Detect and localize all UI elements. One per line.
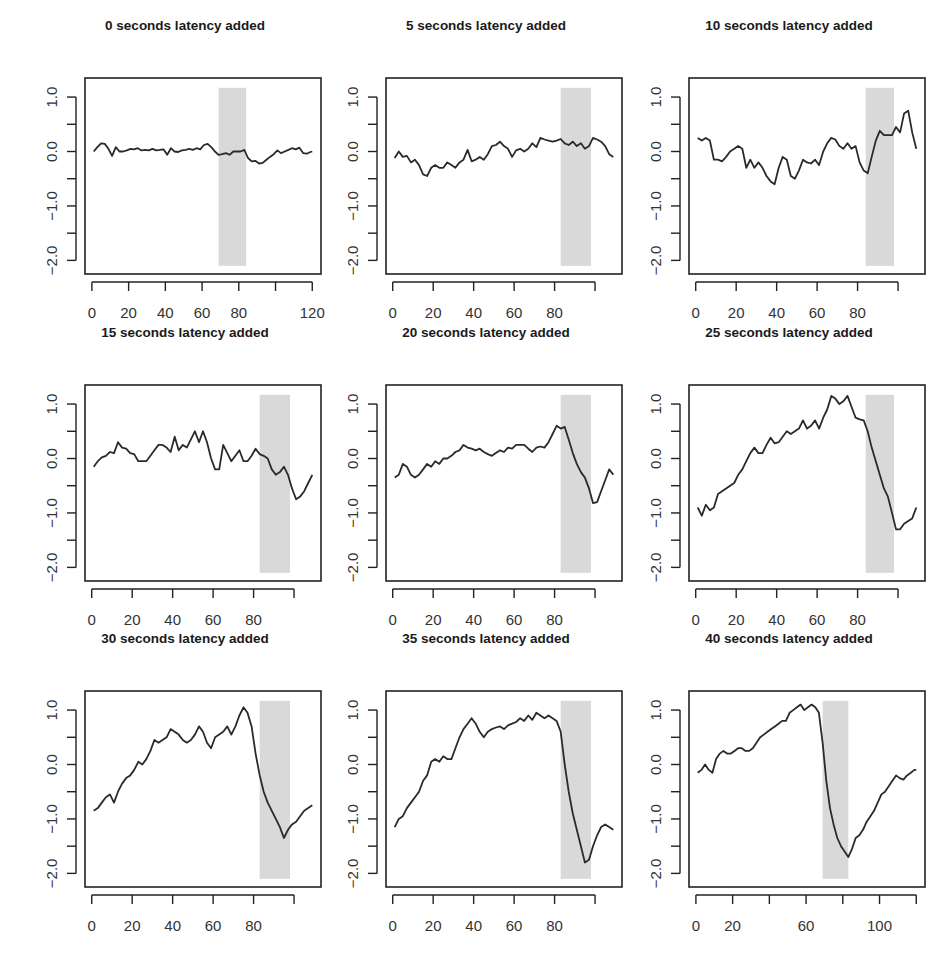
shaded-region bbox=[866, 395, 894, 573]
plot-area: 1.00.0−1.0−2.0020406080 bbox=[639, 307, 939, 617]
y-axis: 1.00.0−1.0−2.0 bbox=[344, 394, 377, 583]
svg-text:−2.0: −2.0 bbox=[43, 246, 60, 276]
svg-text:1.0: 1.0 bbox=[344, 394, 361, 415]
svg-text:0: 0 bbox=[389, 917, 397, 934]
y-axis: 1.00.0−1.0−2.0 bbox=[43, 394, 76, 583]
shaded-region bbox=[561, 701, 591, 879]
svg-text:1.0: 1.0 bbox=[647, 394, 664, 415]
shaded-region bbox=[260, 701, 290, 879]
plot-area: 1.00.0−1.0−2.0020406080 bbox=[336, 307, 636, 617]
y-axis: 1.00.0−1.0−2.0 bbox=[43, 87, 76, 276]
svg-text:80: 80 bbox=[245, 917, 262, 934]
data-line bbox=[698, 705, 917, 858]
svg-text:20: 20 bbox=[124, 917, 141, 934]
plot-area: 1.00.0−1.0−2.0020406080 bbox=[336, 0, 636, 310]
svg-text:−1.0: −1.0 bbox=[344, 804, 361, 834]
svg-text:100: 100 bbox=[867, 917, 892, 934]
svg-text:−1.0: −1.0 bbox=[43, 804, 60, 834]
panel: 25 seconds latency added 1.00.0−1.0−2.00… bbox=[639, 307, 939, 607]
svg-text:−2.0: −2.0 bbox=[43, 553, 60, 583]
panel: 20 seconds latency added 1.00.0−1.0−2.00… bbox=[336, 307, 636, 607]
svg-text:1.0: 1.0 bbox=[647, 700, 664, 721]
panel: 40 seconds latency added 1.00.0−1.0−2.00… bbox=[639, 613, 939, 913]
panel: 10 seconds latency added 1.00.0−1.0−2.00… bbox=[639, 0, 939, 300]
plot-area: 1.00.0−1.0−2.0020406080 bbox=[35, 307, 335, 617]
svg-text:0.0: 0.0 bbox=[43, 754, 60, 775]
y-axis: 1.00.0−1.0−2.0 bbox=[43, 700, 76, 889]
svg-text:1.0: 1.0 bbox=[43, 700, 60, 721]
y-axis: 1.00.0−1.0−2.0 bbox=[647, 700, 680, 889]
svg-text:20: 20 bbox=[724, 917, 741, 934]
svg-text:0.0: 0.0 bbox=[647, 448, 664, 469]
svg-text:0.0: 0.0 bbox=[344, 754, 361, 775]
svg-text:−1.0: −1.0 bbox=[43, 498, 60, 528]
plot-area: 1.00.0−1.0−2.0020406080 bbox=[35, 613, 335, 923]
x-axis: 02060100 bbox=[692, 895, 917, 934]
svg-text:1.0: 1.0 bbox=[647, 87, 664, 108]
svg-text:0: 0 bbox=[692, 917, 700, 934]
svg-text:−2.0: −2.0 bbox=[344, 553, 361, 583]
svg-text:60: 60 bbox=[506, 917, 523, 934]
shaded-region bbox=[260, 395, 290, 573]
svg-text:0: 0 bbox=[88, 917, 96, 934]
svg-text:60: 60 bbox=[205, 917, 222, 934]
panel: 30 seconds latency added 1.00.0−1.0−2.00… bbox=[35, 613, 335, 913]
svg-text:−1.0: −1.0 bbox=[43, 191, 60, 221]
svg-text:−1.0: −1.0 bbox=[647, 191, 664, 221]
shaded-region bbox=[866, 88, 894, 266]
plot-frame bbox=[85, 78, 321, 274]
svg-text:0.0: 0.0 bbox=[647, 754, 664, 775]
svg-text:−2.0: −2.0 bbox=[43, 859, 60, 889]
svg-text:−2.0: −2.0 bbox=[647, 246, 664, 276]
svg-text:1.0: 1.0 bbox=[344, 87, 361, 108]
y-axis: 1.00.0−1.0−2.0 bbox=[647, 87, 680, 276]
svg-text:1.0: 1.0 bbox=[43, 394, 60, 415]
svg-text:−1.0: −1.0 bbox=[647, 498, 664, 528]
svg-text:−2.0: −2.0 bbox=[647, 553, 664, 583]
svg-text:0.0: 0.0 bbox=[43, 448, 60, 469]
y-axis: 1.00.0−1.0−2.0 bbox=[344, 700, 377, 889]
svg-text:−1.0: −1.0 bbox=[344, 191, 361, 221]
svg-text:−1.0: −1.0 bbox=[647, 804, 664, 834]
shaded-region bbox=[219, 88, 247, 266]
svg-text:0.0: 0.0 bbox=[647, 141, 664, 162]
svg-text:−2.0: −2.0 bbox=[344, 859, 361, 889]
plot-area: 1.00.0−1.0−2.0020406080 bbox=[639, 0, 939, 310]
svg-text:80: 80 bbox=[546, 917, 563, 934]
y-axis: 1.00.0−1.0−2.0 bbox=[344, 87, 377, 276]
panel: 5 seconds latency added 1.00.0−1.0−2.002… bbox=[336, 0, 636, 300]
svg-text:0.0: 0.0 bbox=[43, 141, 60, 162]
x-axis: 020406080 bbox=[88, 895, 295, 934]
plot-frame bbox=[689, 691, 925, 887]
data-line bbox=[94, 143, 313, 163]
panel: 15 seconds latency added 1.00.0−1.0−2.00… bbox=[35, 307, 335, 607]
svg-text:60: 60 bbox=[798, 917, 815, 934]
svg-text:0.0: 0.0 bbox=[344, 448, 361, 469]
svg-text:0.0: 0.0 bbox=[344, 141, 361, 162]
plot-area: 1.00.0−1.0−2.0020406080 bbox=[336, 613, 636, 923]
svg-text:−2.0: −2.0 bbox=[647, 859, 664, 889]
plot-area: 1.00.0−1.0−2.0020406080120 bbox=[35, 0, 335, 310]
panel: 35 seconds latency added 1.00.0−1.0−2.00… bbox=[336, 613, 636, 913]
shaded-region bbox=[561, 88, 591, 266]
svg-text:−2.0: −2.0 bbox=[344, 246, 361, 276]
svg-text:−1.0: −1.0 bbox=[344, 498, 361, 528]
plot-area: 1.00.0−1.0−2.002060100 bbox=[639, 613, 939, 923]
y-axis: 1.00.0−1.0−2.0 bbox=[647, 394, 680, 583]
svg-text:40: 40 bbox=[465, 917, 482, 934]
svg-text:40: 40 bbox=[164, 917, 181, 934]
svg-text:1.0: 1.0 bbox=[43, 87, 60, 108]
x-axis: 020406080 bbox=[389, 895, 596, 934]
panel: 0 seconds latency added 1.00.0−1.0−2.002… bbox=[35, 0, 335, 300]
svg-text:1.0: 1.0 bbox=[344, 700, 361, 721]
svg-text:20: 20 bbox=[425, 917, 442, 934]
